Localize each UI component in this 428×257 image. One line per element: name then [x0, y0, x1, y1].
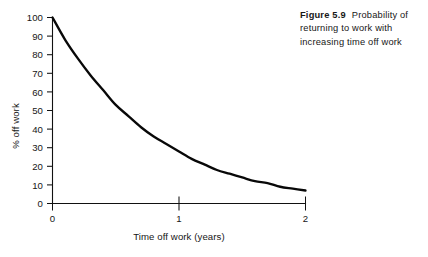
figure-caption: Figure 5.9Probability of returning to wo…: [300, 9, 424, 49]
y-tick-label-30: 30: [32, 142, 43, 153]
figure-container: 100 90 80 70 60 50 40 30 20 10: [0, 0, 428, 257]
decay-curve: [53, 18, 306, 191]
y-axis-title: % off work: [10, 103, 21, 149]
y-tick-label-10: 10: [32, 180, 43, 191]
y-axis-ticks: 100 90 80 70 60 50 40 30 20 10: [27, 12, 53, 209]
y-tick-label-40: 40: [32, 124, 43, 135]
y-tick-label-20: 20: [32, 161, 43, 172]
y-tick-label-0: 0: [38, 198, 43, 209]
chart-plot-area: 100 90 80 70 60 50 40 30 20 10: [0, 0, 330, 257]
y-tick-label-70: 70: [32, 68, 43, 79]
x-tick-label-2: 2: [303, 213, 308, 224]
x-axis-title: Time off work (years): [133, 231, 225, 242]
y-tick-label-100: 100: [27, 12, 43, 23]
figure-number: Figure 5.9: [300, 10, 346, 20]
x-tick-label-1: 1: [176, 213, 181, 224]
y-tick-label-90: 90: [32, 31, 43, 42]
y-tick-label-60: 60: [32, 87, 43, 98]
y-tick-label-80: 80: [32, 49, 43, 60]
x-tick-label-0: 0: [50, 213, 55, 224]
chart-svg: 100 90 80 70 60 50 40 30 20 10: [0, 0, 330, 257]
y-tick-label-50: 50: [32, 105, 43, 116]
x-axis-ticks: 0 1 2: [50, 197, 308, 225]
